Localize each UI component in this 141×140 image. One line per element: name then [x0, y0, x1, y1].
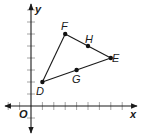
point-label-f: F: [61, 20, 69, 32]
y-axis-label: y: [34, 3, 42, 15]
point-f: [63, 32, 67, 36]
point-d: [40, 80, 44, 84]
x-axis-label: x: [129, 108, 137, 120]
point-label-h: H: [85, 33, 93, 45]
coordinate-plane-figure: x y O D F E H G: [0, 0, 141, 140]
point-label-d: D: [36, 85, 44, 97]
point-label-e: E: [112, 52, 120, 64]
point-label-g: G: [72, 73, 81, 85]
origin-label: O: [19, 108, 28, 120]
point-g: [74, 68, 78, 72]
